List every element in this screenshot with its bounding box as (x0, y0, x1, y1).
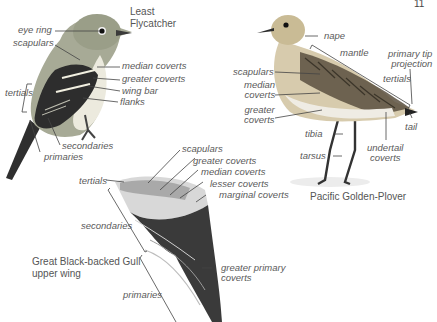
gull-wing-title: Great Black-backed Gull upper wing (32, 256, 140, 279)
gull-wing-title-line2: upper wing (32, 268, 140, 280)
label-gull-median-coverts: median coverts (201, 167, 265, 177)
label-flycatcher-tertials: tertials (5, 88, 33, 98)
flycatcher-title: Least Flycatcher (130, 6, 176, 29)
label-flanks: flanks (120, 97, 145, 107)
label-primary-tip-projection: primary tip projection (388, 49, 432, 69)
gull-wing-title-line1: Great Black-backed Gull (32, 256, 140, 268)
label-flycatcher-primaries: primaries (44, 152, 83, 162)
label-gull-lesser-coverts: lesser coverts (210, 179, 269, 189)
label-flycatcher-secondaries: secondaries (62, 141, 113, 151)
label-nape: nape (324, 31, 345, 41)
label-plover-median-line2: coverts (244, 90, 275, 100)
label-plover-greater-coverts: greater coverts (244, 105, 275, 125)
label-tibia: tibia (305, 129, 322, 139)
label-gull-primaries: primaries (123, 290, 162, 300)
label-mantle: mantle (340, 48, 369, 58)
label-primary-tip-line2: projection (388, 59, 432, 69)
label-tarsus: tarsus (300, 151, 326, 161)
page-number: 11 (414, 0, 424, 9)
label-greater-coverts: greater coverts (122, 74, 185, 84)
label-gull-scapulars: scapulars (182, 144, 223, 154)
label-plover-scapulars: scapulars (233, 67, 274, 77)
label-plover-greater-line2: coverts (244, 115, 275, 125)
label-undertail-line2: coverts (367, 153, 403, 163)
flycatcher-title-line2: Flycatcher (130, 18, 176, 30)
label-gull-greater-primary-coverts: greater primary coverts (221, 263, 285, 283)
label-gull-tertials: tertials (79, 176, 107, 186)
label-flycatcher-scapulars: scapulars (13, 38, 54, 48)
label-gull-greater-coverts: greater coverts (193, 156, 256, 166)
plover-title: Pacific Golden-Plover (310, 191, 406, 203)
label-gull-secondaries: secondaries (81, 221, 132, 231)
label-wing-bar: wing bar (122, 86, 158, 96)
label-median-coverts: median coverts (122, 61, 186, 71)
label-gull-marginal-coverts: marginal coverts (219, 190, 289, 200)
label-eye-ring: eye ring (18, 25, 52, 35)
label-undertail-coverts: undertail coverts (367, 143, 403, 163)
label-plover-median-coverts: median coverts (244, 80, 275, 100)
label-tail: tail (405, 122, 417, 132)
flycatcher-title-line1: Least (130, 6, 176, 18)
label-plover-tertials: tertials (383, 74, 411, 84)
label-greater-primary-line2: coverts (221, 273, 285, 283)
